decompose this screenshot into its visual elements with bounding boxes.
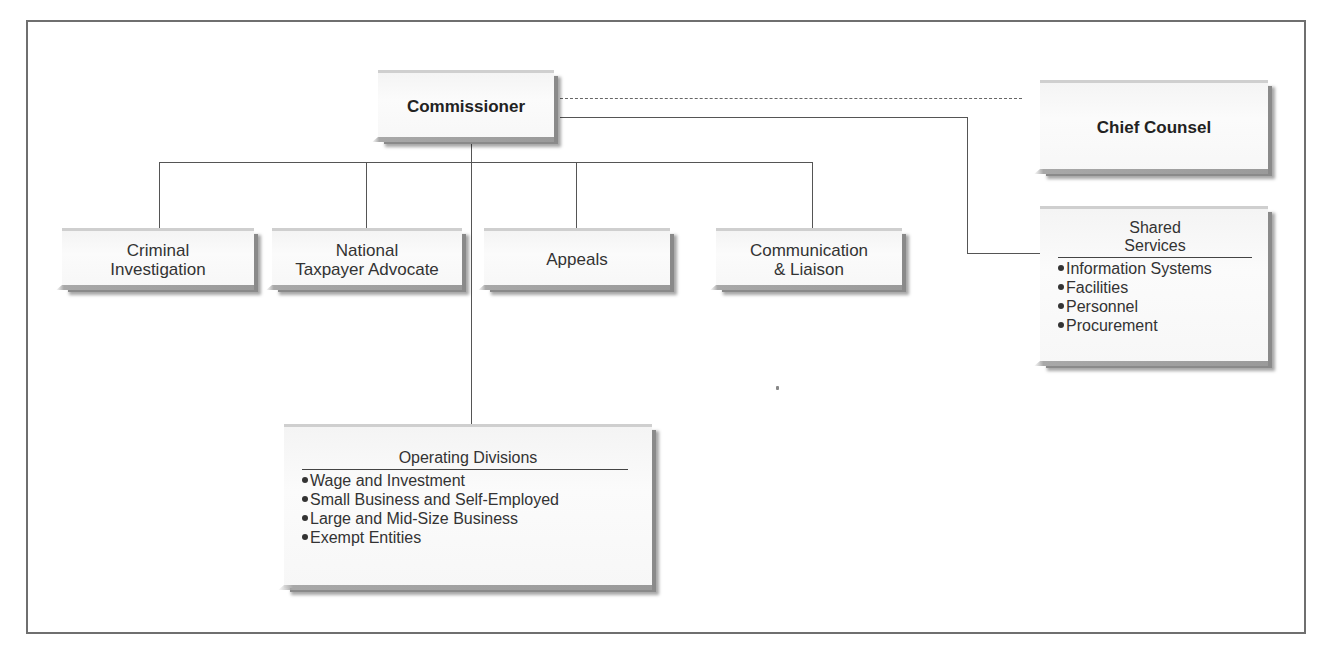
operating-divisions-divider <box>302 469 628 470</box>
taxpayer-advocate-line2: Taxpayer Advocate <box>295 260 439 279</box>
bullet-icon <box>1058 303 1064 309</box>
connector-criminal-investigation <box>159 162 160 228</box>
communication-liaison-line1: Communication <box>750 241 868 260</box>
operating-divisions-title: Operating Divisions <box>302 449 634 467</box>
org-box-criminal-investigation: Criminal Investigation <box>62 228 254 288</box>
org-box-communication-liaison: Communication & Liaison <box>716 228 902 288</box>
shared-services-item-label: Personnel <box>1066 298 1138 315</box>
operating-division-label: Small Business and Self-Employed <box>310 491 559 508</box>
communication-liaison-line2: & Liaison <box>774 260 844 279</box>
shared-services-title-line1: Shared <box>1058 219 1252 237</box>
criminal-investigation-line2: Investigation <box>110 260 205 279</box>
org-box-shared-services: Shared Services Information Systems Faci… <box>1040 206 1268 364</box>
shared-services-item-label: Facilities <box>1066 279 1128 296</box>
appeals-label: Appeals <box>546 250 607 269</box>
chief-counsel-label: Chief Counsel <box>1097 118 1211 138</box>
bullet-icon <box>302 477 308 483</box>
connector-commissioner-trunk <box>471 143 472 425</box>
connector-taxpayer-advocate <box>366 162 367 228</box>
list-item: Exempt Entities <box>302 528 634 547</box>
operating-division-label: Large and Mid-Size Business <box>310 510 518 527</box>
shared-services-item-label: Information Systems <box>1066 260 1212 277</box>
org-box-chief-counsel: Chief Counsel <box>1040 80 1268 172</box>
connector-communication-liaison <box>812 162 813 228</box>
org-box-national-taxpayer-advocate: National Taxpayer Advocate <box>272 228 462 288</box>
commissioner-label: Commissioner <box>407 97 525 117</box>
org-box-commissioner: Commissioner <box>378 70 554 140</box>
list-item: Procurement <box>1058 316 1252 335</box>
bullet-icon <box>302 515 308 521</box>
list-item: Large and Mid-Size Business <box>302 509 634 528</box>
list-item: Facilities <box>1058 278 1252 297</box>
taxpayer-advocate-line1: National <box>336 241 398 260</box>
bullet-icon <box>302 496 308 502</box>
list-item: Information Systems <box>1058 259 1252 278</box>
shared-services-divider <box>1058 257 1252 258</box>
bullet-icon <box>1058 284 1064 290</box>
scan-artifact-dot <box>776 386 779 390</box>
shared-services-title-line2: Services <box>1058 237 1252 255</box>
connector-commissioner-to-shared-services-h1 <box>560 117 968 118</box>
operating-division-label: Wage and Investment <box>310 472 465 489</box>
operating-division-label: Exempt Entities <box>310 529 421 546</box>
org-box-appeals: Appeals <box>484 228 670 288</box>
connector-to-shared-services-h2 <box>967 253 1040 254</box>
list-item: Small Business and Self-Employed <box>302 490 634 509</box>
bullet-icon <box>1058 322 1064 328</box>
connector-to-shared-services-v <box>967 117 968 254</box>
list-item: Personnel <box>1058 297 1252 316</box>
bullet-icon <box>302 534 308 540</box>
connector-staff-bus <box>159 162 812 163</box>
bullet-icon <box>1058 265 1064 271</box>
list-item: Wage and Investment <box>302 471 634 490</box>
connector-appeals <box>576 162 577 228</box>
criminal-investigation-line1: Criminal <box>127 241 189 260</box>
shared-services-item-label: Procurement <box>1066 317 1158 334</box>
dotted-connector-chief-counsel <box>560 98 1022 99</box>
org-box-operating-divisions: Operating Divisions Wage and Investment … <box>284 424 652 588</box>
